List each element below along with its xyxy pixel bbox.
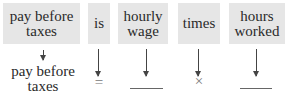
blank-line-hourly-wage [130, 88, 163, 89]
down-arrow-icon [146, 49, 147, 76]
phrase-label: times [183, 16, 216, 31]
phrase-label: is [94, 16, 104, 31]
phrase-box-times: times [178, 3, 220, 44]
phrase-box-pay-before-taxes: pay before taxes [3, 3, 80, 44]
blank-line-hours-worked [240, 88, 272, 89]
times-sign: × [188, 73, 210, 90]
down-arrow-icon [98, 49, 99, 76]
equals-sign: = [88, 74, 110, 91]
translation-pay-before-taxes: pay before taxes [3, 64, 83, 94]
phrase-label: hourly wage [118, 9, 168, 39]
down-arrow-icon [43, 50, 44, 60]
down-arrow-icon [256, 49, 257, 76]
phrase-box-hourly-wage: hourly wage [118, 3, 168, 44]
down-arrow-icon [198, 49, 199, 76]
phrase-label: pay before taxes [3, 9, 80, 39]
phrase-box-hours-worked: hours worked [229, 3, 285, 44]
phrase-label: hours worked [229, 9, 285, 39]
phrase-box-is: is [88, 3, 110, 44]
